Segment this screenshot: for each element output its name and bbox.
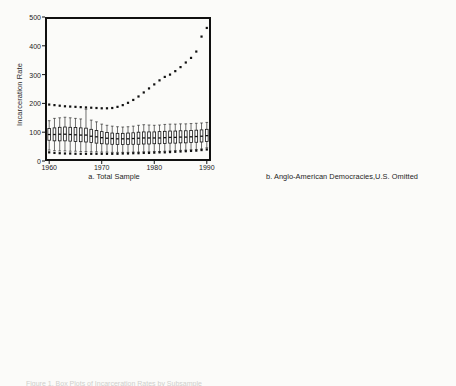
- panel-a-ytick-200: 200: [15, 100, 41, 107]
- outlier-point: [158, 79, 160, 81]
- outlier-point: [116, 106, 118, 108]
- outlier-point: [48, 103, 50, 105]
- box-plot-1970: [100, 124, 103, 152]
- outlier-point: [195, 50, 197, 52]
- box-plot-1984: [174, 124, 177, 150]
- outlier-point: [190, 57, 192, 59]
- outlier-point: [127, 152, 129, 154]
- box-plot-1961: [53, 118, 56, 150]
- box-plot-1966: [79, 119, 82, 152]
- outlier-point: [111, 107, 113, 109]
- panel-a-series: [45, 17, 211, 161]
- box-plot-1974: [121, 127, 124, 152]
- outlier-point: [127, 102, 129, 104]
- outlier-point: [169, 74, 171, 76]
- box-plot-1983: [169, 124, 172, 151]
- outlier-point: [137, 95, 139, 97]
- outlier-point: [153, 83, 155, 85]
- outlier-point: [148, 152, 150, 154]
- outlier-point: [206, 148, 208, 150]
- panel-b: Incarceration Rate b. Anglo-American Dem…: [228, 0, 456, 193]
- outlier-point: [90, 153, 92, 155]
- outlier-point: [116, 153, 118, 155]
- outlier-point: [164, 76, 166, 78]
- panel-d: Incarceration Rate d. Corporatist Democr…: [228, 193, 456, 386]
- outlier-point: [53, 104, 55, 106]
- outlier-point: [137, 152, 139, 154]
- box-plot-1965: [74, 118, 77, 151]
- panel-a: Incarceration Rate a. Total Sample 01002…: [0, 0, 228, 193]
- outlier-point: [85, 106, 87, 108]
- outlier-point: [148, 87, 150, 89]
- box-plot-1973: [116, 127, 119, 153]
- panel-a-xtick-1980: 1980: [146, 164, 162, 171]
- outlier-point: [143, 91, 145, 93]
- outlier-point: [69, 152, 71, 154]
- outlier-point: [64, 152, 66, 154]
- outlier-point: [80, 106, 82, 108]
- panel-a-xtick-1960: 1960: [41, 164, 57, 171]
- box-plot-1988: [195, 123, 198, 149]
- box-plot-1987: [190, 124, 193, 150]
- outlier-point: [111, 153, 113, 155]
- box-plot-1989: [200, 123, 203, 149]
- panel-c: Incarceration Rate c. Scandinavian Socia…: [0, 193, 228, 386]
- outlier-point: [95, 153, 97, 155]
- outlier-point: [85, 153, 87, 155]
- box-plot-1979: [148, 125, 151, 152]
- box-plot-1981: [158, 125, 161, 151]
- outlier-point: [59, 105, 61, 107]
- outlier-point: [174, 151, 176, 153]
- box-plot-1969: [95, 122, 98, 152]
- outlier-point: [106, 107, 108, 109]
- box-plot-1963: [64, 117, 67, 151]
- panel-a-xtick-1990: 1990: [199, 164, 215, 171]
- outlier-point: [95, 107, 97, 109]
- box-plot-1980: [153, 125, 156, 151]
- outlier-point: [174, 70, 176, 72]
- outlier-point: [80, 153, 82, 155]
- box-plot-1986: [184, 124, 187, 150]
- box-plot-1971: [106, 125, 109, 152]
- box-plot-1975: [127, 127, 130, 153]
- box-plot-1972: [111, 126, 114, 152]
- box-plot-1976: [132, 126, 135, 152]
- outlier-point: [101, 107, 103, 109]
- panel-a-ytick-300: 300: [15, 71, 41, 78]
- outlier-point: [132, 99, 134, 101]
- outlier-point: [106, 153, 108, 155]
- outlier-point: [158, 151, 160, 153]
- figure-panel-grid: Incarceration Rate a. Total Sample 01002…: [0, 0, 456, 386]
- outlier-point: [90, 107, 92, 109]
- outlier-point: [185, 150, 187, 152]
- outlier-point: [122, 152, 124, 154]
- outlier-point: [74, 153, 76, 155]
- panel-a-plot-area: [45, 17, 211, 161]
- box-plot-1968: [90, 120, 93, 152]
- box-plot-1967: [85, 109, 88, 151]
- outlier-point: [64, 105, 66, 107]
- outlier-point: [179, 66, 181, 68]
- panel-a-caption: a. Total Sample: [0, 172, 228, 181]
- outlier-point: [190, 150, 192, 152]
- outlier-point: [53, 152, 55, 154]
- outlier-point: [200, 35, 202, 37]
- outlier-point: [185, 61, 187, 63]
- panel-a-ytick-500: 500: [15, 14, 41, 21]
- outlier-point: [164, 151, 166, 153]
- box-plot-1960: [48, 121, 51, 150]
- box-plot-1982: [163, 124, 166, 151]
- outlier-point: [206, 27, 208, 29]
- outlier-point: [74, 106, 76, 108]
- panel-a-ytick-0: 0: [15, 158, 41, 165]
- outlier-point: [122, 104, 124, 106]
- panel-a-xtick-1970: 1970: [94, 164, 110, 171]
- outlier-point: [59, 152, 61, 154]
- figure-caption: Figure 1. Box Plots of Incarceration Rat…: [26, 379, 426, 386]
- outlier-point: [169, 151, 171, 153]
- outlier-point: [101, 153, 103, 155]
- outlier-point: [132, 152, 134, 154]
- panel-b-caption: b. Anglo-American Democracies,U.S. Omitt…: [228, 172, 456, 181]
- outlier-point: [153, 152, 155, 154]
- outlier-point: [200, 149, 202, 151]
